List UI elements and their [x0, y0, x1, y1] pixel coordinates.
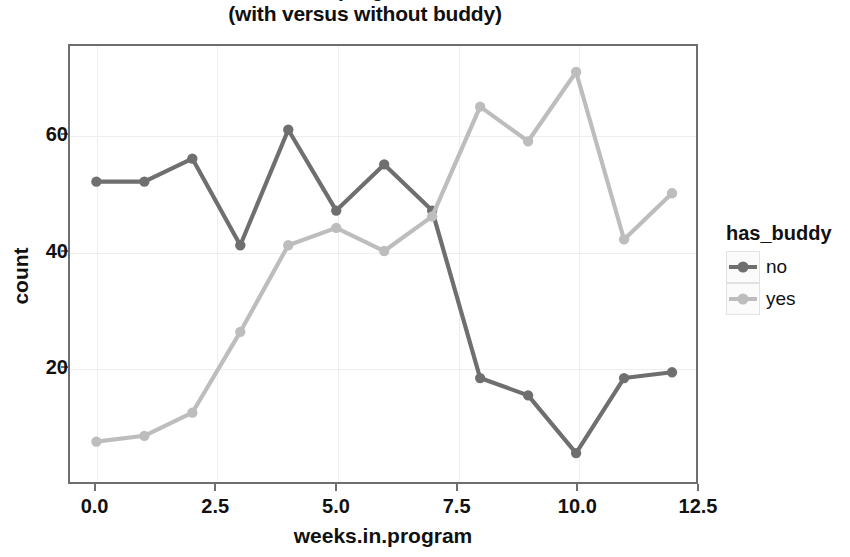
data-point-no-8: [475, 373, 485, 383]
data-point-yes-12: [667, 188, 677, 198]
x-tick-label-5: 12.5: [679, 495, 718, 518]
legend-key-dot: [738, 294, 749, 305]
data-point-yes-0: [91, 436, 101, 446]
legend-key-no-icon: [726, 251, 760, 283]
data-point-yes-9: [523, 136, 533, 146]
data-point-no-4: [283, 125, 293, 135]
data-point-yes-8: [475, 101, 485, 111]
x-tick-mark-3: [456, 484, 458, 491]
series-line-yes: [96, 72, 672, 442]
data-point-no-12: [667, 367, 677, 377]
x-tick-mark-1: [214, 484, 216, 491]
x-tick-mark-4: [576, 484, 578, 491]
x-tick-mark-0: [94, 484, 96, 491]
data-point-yes-6: [379, 246, 389, 256]
legend: has_buddy noyes: [726, 222, 832, 315]
x-tick-mark-2: [335, 484, 337, 491]
data-point-no-1: [139, 177, 149, 187]
data-point-yes-3: [235, 327, 245, 337]
legend-key-dot: [738, 262, 749, 273]
data-point-no-0: [91, 177, 101, 187]
x-axis-title: weeks.in.program: [68, 524, 698, 548]
x-tick-label-4: 10.0: [558, 495, 597, 518]
series-line-no: [96, 130, 672, 453]
data-point-yes-11: [619, 234, 629, 244]
data-point-no-5: [331, 205, 341, 215]
legend-item-no[interactable]: no: [726, 251, 832, 283]
y-tick-label-2: 60: [46, 123, 68, 146]
legend-title: has_buddy: [726, 222, 832, 245]
data-point-yes-2: [187, 408, 197, 418]
chart-title: weeks in program count (with versus with…: [0, 0, 730, 26]
chart-container: weeks in program count (with versus with…: [0, 0, 850, 557]
x-tick-label-3: 7.5: [443, 495, 471, 518]
data-point-no-6: [379, 159, 389, 169]
y-axis-title: count: [9, 186, 33, 366]
x-tick-label-2: 5.0: [322, 495, 350, 518]
y-tick-label-0: 20: [46, 356, 68, 379]
legend-label-no: no: [766, 256, 787, 278]
x-tick-label-0: 0.0: [81, 495, 109, 518]
legend-items: noyes: [726, 251, 832, 315]
series-layer: [70, 46, 696, 482]
data-point-no-9: [523, 390, 533, 400]
data-point-yes-10: [571, 67, 581, 77]
legend-label-yes: yes: [766, 288, 796, 310]
series-no: [91, 125, 677, 459]
data-point-no-3: [235, 240, 245, 250]
data-point-yes-5: [331, 223, 341, 233]
data-point-no-11: [619, 373, 629, 383]
y-tick-label-1: 40: [46, 239, 68, 262]
legend-key-yes-icon: [726, 283, 760, 315]
data-point-yes-7: [427, 211, 437, 221]
data-point-no-2: [187, 153, 197, 163]
x-tick-label-1: 2.5: [201, 495, 229, 518]
data-point-no-10: [571, 448, 581, 458]
x-tick-mark-5: [697, 484, 699, 491]
plot-panel: [68, 44, 698, 484]
chart-title-line-2: (with versus without buddy): [0, 2, 730, 26]
legend-item-yes[interactable]: yes: [726, 283, 832, 315]
series-yes: [91, 67, 677, 447]
plot-area: [70, 46, 696, 482]
data-point-yes-4: [283, 240, 293, 250]
data-point-yes-1: [139, 431, 149, 441]
